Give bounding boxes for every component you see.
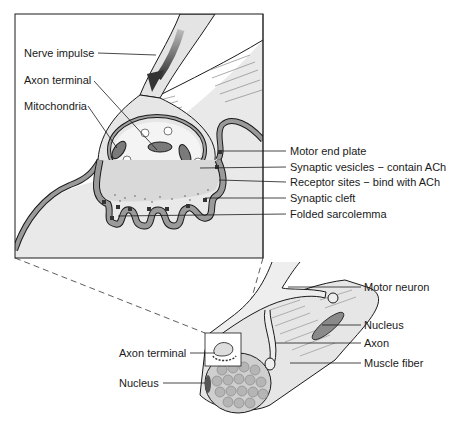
label-nucleus-left: Nucleus — [119, 377, 159, 390]
label-axon: Axon — [364, 337, 389, 350]
label-receptor-sites: Receptor sites − bind with ACh — [290, 176, 440, 189]
label-motor-neuron: Motor neuron — [364, 281, 429, 294]
label-nucleus-right: Nucleus — [364, 319, 404, 332]
muscle-fiber — [200, 262, 379, 413]
label-nerve-impulse: Nerve impulse — [24, 47, 94, 60]
label-motor-end-plate: Motor end plate — [290, 145, 366, 158]
label-folded-sarcolemma: Folded sarcolemma — [290, 208, 387, 221]
label-muscle-fiber: Muscle fiber — [364, 357, 423, 370]
label-synaptic-cleft: Synaptic cleft — [290, 192, 355, 205]
label-axon-terminal-small: Axon terminal — [119, 347, 186, 360]
label-synaptic-vesicles: Synaptic vesicles − contain ACh — [290, 161, 446, 174]
label-mitochondria: Mitochondria — [24, 100, 87, 113]
label-axon-terminal: Axon terminal — [24, 74, 91, 87]
